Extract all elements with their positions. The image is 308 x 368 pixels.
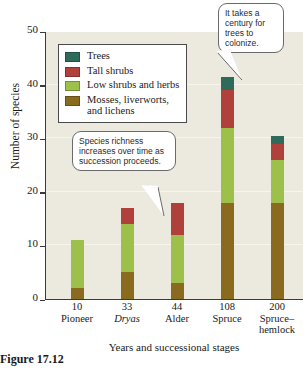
legend-label-tall-shrubs: Tall shrubs [87, 65, 133, 77]
bar-segment-low-shrubs [271, 160, 284, 203]
bar-segment-mosses [221, 203, 234, 300]
richness-callout-tail [140, 186, 174, 222]
y-tick-label: 40 [27, 78, 38, 89]
y-axis-title: Number of species [9, 51, 21, 201]
bar-spruce-hemlock[interactable] [271, 136, 284, 299]
legend-item-mosses[interactable]: Mosses, liverworts, and lichens [65, 94, 179, 117]
bar-segment-tall-shrubs [221, 90, 234, 128]
legend-swatch-tall-shrubs [65, 67, 80, 77]
bar-dryas[interactable] [121, 208, 134, 299]
bar-segment-low-shrubs [71, 240, 84, 288]
figure-container: 0 10 20 30 40 50 Number of species 10 Pi… [0, 0, 308, 368]
x-tick-stage: Spruce–hemlock [242, 313, 308, 336]
legend-label-mosses: Mosses, liverworts, and lichens [87, 94, 169, 117]
bar-segment-tall-shrubs [121, 208, 134, 224]
bar-pioneer[interactable] [71, 240, 84, 299]
legend-swatch-low-shrubs [65, 81, 80, 91]
x-tick-spruce-hemlock: 200 Spruce–hemlock [242, 301, 308, 336]
legend-label-trees: Trees [87, 50, 110, 62]
y-tick-mark [40, 246, 45, 248]
bar-segment-mosses [121, 272, 134, 299]
legend-item-trees[interactable]: Trees [65, 50, 179, 62]
legend: Trees Tall shrubs Low shrubs and herbs M… [58, 44, 187, 123]
bar-spruce[interactable] [221, 77, 234, 299]
y-axis: 0 10 20 30 40 50 [0, 32, 45, 300]
legend-swatch-mosses [65, 96, 80, 106]
species-richness-callout: Species richness increases over time as … [72, 131, 176, 171]
bar-segment-mosses [71, 288, 84, 299]
bar-segment-mosses [271, 203, 284, 300]
y-tick-label: 50 [27, 24, 38, 35]
bar-segment-tall-shrubs [271, 144, 284, 160]
legend-swatch-trees [65, 52, 80, 62]
bar-segment-low-shrubs [221, 128, 234, 203]
legend-label-low-shrubs: Low shrubs and herbs [87, 79, 179, 91]
legend-item-tall-shrubs[interactable]: Tall shrubs [65, 65, 179, 77]
bar-segment-low-shrubs [121, 224, 134, 272]
y-tick-label: 0 [33, 292, 39, 303]
bar-segment-trees [271, 136, 284, 144]
y-tick-mark [40, 85, 45, 87]
bar-segment-mosses [171, 283, 184, 299]
y-tick-label: 30 [27, 131, 38, 142]
y-tick-mark [40, 139, 45, 141]
legend-item-low-shrubs[interactable]: Low shrubs and herbs [65, 79, 179, 91]
y-tick-label: 20 [27, 185, 38, 196]
y-tick-mark [40, 192, 45, 194]
gridline [46, 191, 303, 192]
figure-caption: Figure 17.12 [0, 352, 308, 368]
y-tick-label: 10 [27, 238, 38, 249]
bar-segment-low-shrubs [171, 235, 184, 283]
trees-colonize-callout: It takes a century for trees to colonize… [218, 3, 284, 53]
x-tick-year: 200 [242, 301, 308, 313]
y-tick-mark [40, 32, 45, 34]
trees-callout-tail [212, 50, 252, 86]
